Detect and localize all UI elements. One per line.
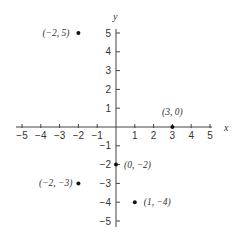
data-point: (−2, −3) <box>39 178 80 189</box>
y-tick-label: −1 <box>100 140 112 151</box>
x-tick-label: 3 <box>170 130 176 141</box>
data-point: (3, 0) <box>162 107 183 129</box>
y-tick-label: −3 <box>100 178 112 189</box>
coordinate-plane: −5−4−3−2−112345 −5−4−3−2−112345 (−2, 5)(… <box>0 0 237 239</box>
point-label: (−2, −3) <box>39 178 72 189</box>
y-tick-label: 4 <box>105 46 111 57</box>
x-tick-label: −4 <box>35 130 47 141</box>
x-axis-label: x <box>223 122 229 133</box>
point-label: (1, −4) <box>144 197 171 208</box>
x-tick-label: 5 <box>207 130 213 141</box>
point-label: (−2, 5) <box>42 28 69 39</box>
x-tick-label: 4 <box>188 130 194 141</box>
point-marker <box>114 163 118 167</box>
x-tick-label: −2 <box>73 130 85 141</box>
point-marker <box>170 125 174 129</box>
y-tick-label: 5 <box>105 28 111 39</box>
y-axis-label: y <box>112 11 118 22</box>
data-point: (1, −4) <box>133 197 171 208</box>
y-tick-label: 1 <box>105 103 111 114</box>
point-marker <box>76 181 80 185</box>
x-tick-label: −5 <box>16 130 28 141</box>
x-tick-label: 1 <box>132 130 138 141</box>
x-tick-label: −3 <box>54 130 66 141</box>
y-tick-label: −5 <box>100 216 112 227</box>
x-tick-label: 2 <box>151 130 157 141</box>
point-marker <box>133 200 137 204</box>
axes <box>16 29 212 227</box>
point-label: (0, −2) <box>124 160 151 171</box>
y-tick-label: −2 <box>100 159 112 170</box>
data-point: (−2, 5) <box>42 28 80 39</box>
y-tick-label: −4 <box>100 197 112 208</box>
y-tick-label: 3 <box>105 65 111 76</box>
point-label: (3, 0) <box>162 107 183 118</box>
y-tick-label: 2 <box>105 84 111 95</box>
point-marker <box>76 31 80 35</box>
